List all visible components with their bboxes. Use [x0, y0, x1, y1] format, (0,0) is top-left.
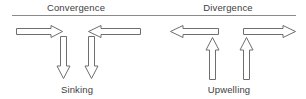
heading-convergence: Convergence [0, 2, 152, 13]
heading-divergence: Divergence [152, 2, 304, 13]
convergence-divergence-diagram: Convergence Divergence Sinking Upwelling [0, 0, 306, 99]
caption-upwelling: Upwelling [172, 84, 286, 95]
arrow-up-upwelling-2 [239, 37, 254, 80]
caption-sinking: Sinking [20, 84, 134, 95]
arrow-down-sinking-1 [56, 36, 71, 79]
arrow-up-upwelling-1 [205, 37, 220, 80]
arrow-down-sinking-2 [84, 36, 99, 79]
horizontal-divider [12, 15, 296, 16]
